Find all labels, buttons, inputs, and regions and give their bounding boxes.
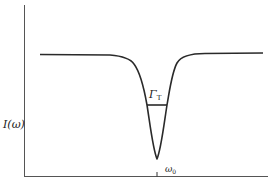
linewidth-label: ΓT	[149, 88, 161, 102]
chart-canvas	[0, 0, 271, 184]
absorption-line-chart: I(ω) ΓT ω0	[0, 0, 271, 184]
intensity-curve	[40, 53, 263, 159]
x-tick-label-omega0: ω0	[165, 164, 176, 175]
y-axis-label: I(ω)	[3, 118, 25, 131]
